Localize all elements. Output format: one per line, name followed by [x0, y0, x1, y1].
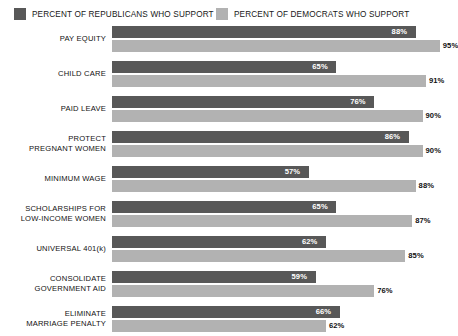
- category-label: UNIVERSAL 401(k): [0, 236, 106, 262]
- bar-democrats: [112, 180, 416, 192]
- bar-row-democrats: 62%: [112, 320, 445, 332]
- bar-value-label: 76%: [350, 96, 366, 108]
- bar-value-label: 65%: [312, 61, 328, 73]
- bar-row-democrats: 90%: [112, 110, 445, 122]
- bar-value-label: 76%: [377, 285, 393, 297]
- bar-group: ELIMINATEMARRIAGE PENALTY66%62%: [0, 306, 445, 336]
- bar-value-label: 90%: [426, 110, 442, 122]
- legend-label-democrats: PERCENT OF DEMOCRATS WHO SUPPORT: [234, 10, 409, 19]
- bar-republicans: [112, 61, 336, 73]
- category-label-line: UNIVERSAL 401(k): [36, 244, 106, 255]
- bar-group: CONSOLIDATEGOVERNMENT AID59%76%: [0, 271, 445, 306]
- bar-row-democrats: 88%: [112, 180, 445, 192]
- bar-democrats: [112, 110, 423, 122]
- legend-label-republicans: PERCENT OF REPUBLICANS WHO SUPPORT: [32, 10, 214, 19]
- bar-group: CHILD CARE65%91%: [0, 61, 445, 96]
- bar-pair: 88%95%: [112, 26, 445, 52]
- bar-value-label: 95%: [443, 40, 458, 52]
- bar-democrats: [112, 40, 440, 52]
- bar-republicans: [112, 166, 309, 178]
- bar-pair: 57%88%: [112, 166, 445, 192]
- bar-group: UNIVERSAL 401(k)62%85%: [0, 236, 445, 271]
- legend-swatch-republicans: [14, 8, 26, 20]
- bar-row-republicans: 76%: [112, 96, 445, 108]
- bar-row-republicans: 62%: [112, 236, 445, 248]
- bar-republicans: [112, 201, 336, 213]
- bar-group: PAID LEAVE76%90%: [0, 96, 445, 131]
- bar-democrats: [112, 145, 423, 157]
- bar-value-label: 88%: [419, 180, 435, 192]
- bar-row-republicans: 59%: [112, 271, 445, 283]
- bar-pair: 65%87%: [112, 201, 445, 227]
- bar-row-democrats: 85%: [112, 250, 445, 262]
- bar-row-democrats: 76%: [112, 285, 445, 297]
- bar-row-republicans: 88%: [112, 26, 445, 38]
- bar-pair: 76%90%: [112, 96, 445, 122]
- bar-group: MINIMUM WAGE57%88%: [0, 166, 445, 201]
- category-label-line: PREGNANT WOMEN: [29, 144, 106, 155]
- bar-value-label: 59%: [292, 271, 308, 283]
- bar-republicans: [112, 131, 409, 143]
- bar-republicans: [112, 26, 416, 38]
- bar-democrats: [112, 215, 412, 227]
- category-label-line: LOW-INCOME WOMEN: [21, 214, 106, 225]
- bar-value-label: 65%: [312, 201, 328, 213]
- bar-pair: 59%76%: [112, 271, 445, 297]
- category-label-line: CONSOLIDATE: [50, 274, 106, 285]
- bar-chart: PAY EQUITY88%95%CHILD CARE65%91%PAID LEA…: [0, 26, 445, 331]
- category-label: CHILD CARE: [0, 61, 106, 87]
- bar-value-label: 62%: [329, 320, 345, 332]
- category-label-line: PAID LEAVE: [61, 104, 106, 115]
- bar-republicans: [112, 306, 340, 318]
- bar-value-label: 88%: [392, 26, 408, 38]
- bar-value-label: 87%: [415, 215, 431, 227]
- category-label-line: PAY EQUITY: [60, 34, 106, 45]
- bar-democrats: [112, 75, 426, 87]
- bar-republicans: [112, 96, 374, 108]
- bar-row-republicans: 65%: [112, 201, 445, 213]
- bar-pair: 66%62%: [112, 306, 445, 332]
- bar-value-label: 91%: [429, 75, 445, 87]
- bar-republicans: [112, 236, 326, 248]
- bar-pair: 62%85%: [112, 236, 445, 262]
- category-label-line: MARRIAGE PENALTY: [26, 319, 106, 330]
- category-label: ELIMINATEMARRIAGE PENALTY: [0, 306, 106, 332]
- bar-row-republicans: 57%: [112, 166, 445, 178]
- category-label: PROTECTPREGNANT WOMEN: [0, 131, 106, 157]
- category-label-line: SCHOLARSHIPS FOR: [25, 204, 106, 215]
- bar-group: PAY EQUITY88%95%: [0, 26, 445, 61]
- bar-row-democrats: 90%: [112, 145, 445, 157]
- bar-democrats: [112, 320, 326, 332]
- bar-value-label: 90%: [426, 145, 442, 157]
- category-label: SCHOLARSHIPS FORLOW-INCOME WOMEN: [0, 201, 106, 227]
- category-label: MINIMUM WAGE: [0, 166, 106, 192]
- bar-value-label: 57%: [285, 166, 301, 178]
- legend-item-republicans: PERCENT OF REPUBLICANS WHO SUPPORT: [14, 8, 214, 20]
- bar-value-label: 86%: [385, 131, 401, 143]
- category-label: CONSOLIDATEGOVERNMENT AID: [0, 271, 106, 297]
- bar-value-label: 62%: [302, 236, 318, 248]
- bar-pair: 65%91%: [112, 61, 445, 87]
- bar-value-label: 85%: [408, 250, 424, 262]
- category-label-line: MINIMUM WAGE: [44, 174, 106, 185]
- legend-item-democrats: PERCENT OF DEMOCRATS WHO SUPPORT: [216, 8, 409, 20]
- category-label-line: ELIMINATE: [65, 309, 106, 320]
- bar-democrats: [112, 285, 374, 297]
- bar-row-democrats: 87%: [112, 215, 445, 227]
- bar-group: PROTECTPREGNANT WOMEN86%90%: [0, 131, 445, 166]
- bar-row-republicans: 66%: [112, 306, 445, 318]
- bar-democrats: [112, 250, 405, 262]
- category-label-line: GOVERNMENT AID: [35, 284, 106, 295]
- category-label-line: CHILD CARE: [58, 69, 106, 80]
- bar-row-democrats: 95%: [112, 40, 445, 52]
- bar-republicans: [112, 271, 316, 283]
- bar-value-label: 66%: [316, 306, 332, 318]
- bar-row-republicans: 86%: [112, 131, 445, 143]
- bar-group: SCHOLARSHIPS FORLOW-INCOME WOMEN65%87%: [0, 201, 445, 236]
- category-label: PAID LEAVE: [0, 96, 106, 122]
- category-label-line: PROTECT: [68, 134, 106, 145]
- bar-pair: 86%90%: [112, 131, 445, 157]
- legend-swatch-democrats: [216, 8, 228, 20]
- bar-row-republicans: 65%: [112, 61, 445, 73]
- category-label: PAY EQUITY: [0, 26, 106, 52]
